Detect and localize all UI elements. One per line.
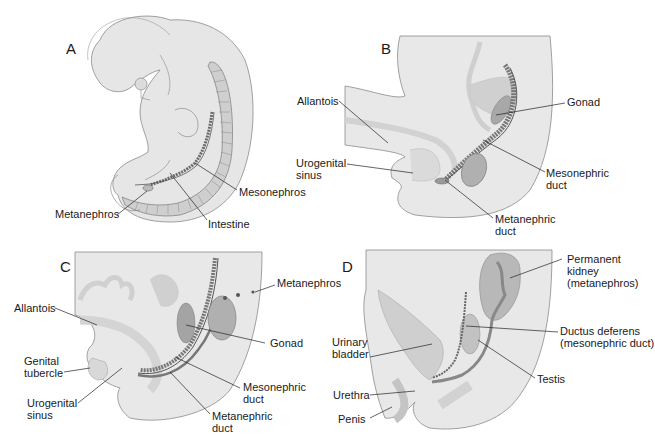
label-urethra-d: Urethra	[333, 389, 370, 402]
label-metanephros-c: Metanephros	[277, 277, 341, 290]
panel-b-section	[339, 36, 565, 218]
label-tubercle-c: tubercle	[24, 367, 63, 380]
label-mesonephric-duct-d: (mesonephric duct)	[560, 337, 654, 350]
panel-d-body	[364, 250, 552, 429]
label-gonad-b: Gonad	[567, 96, 600, 109]
label-metanephros-a: Metanephros	[55, 208, 119, 221]
label-bladder-d: bladder	[332, 348, 369, 361]
label-allantois-b: Allantois	[297, 95, 339, 108]
label-allantois-c: Allantois	[14, 302, 56, 315]
panel-label-a: A	[66, 40, 76, 57]
label-sinus-c: sinus	[27, 409, 53, 422]
gonad-c	[177, 303, 195, 343]
label-mesonephros-a: Mesonephros	[239, 186, 306, 199]
panel-a-embryo	[88, 16, 253, 222]
panel-label-c: C	[60, 258, 71, 275]
label-testis-d: Testis	[537, 373, 565, 386]
label-gonad-c: Gonad	[270, 337, 303, 350]
panel-label-b: B	[381, 40, 391, 57]
metanephric-duct-b-bud	[435, 178, 449, 184]
leader-genital-tubercle-c	[64, 368, 90, 372]
label-penis-d: Penis	[338, 413, 366, 426]
optic-vesicle	[135, 78, 147, 90]
label-mesonephric-duct-c: duct	[243, 393, 264, 406]
panel-c-section	[55, 252, 275, 420]
label-mesonephric-duct-b: duct	[546, 179, 567, 192]
label-intestine-a: Intestine	[208, 218, 250, 231]
label-metanephric-duct-b: duct	[495, 225, 516, 238]
label-metanephros-d: (metanephros)	[567, 277, 639, 290]
panel-label-d: D	[342, 258, 353, 275]
label-metanephric-duct-c: duct	[212, 422, 233, 435]
label-sinus-b: sinus	[296, 169, 322, 182]
panel-d-section	[364, 250, 562, 429]
metanephros-bud-a	[143, 185, 153, 191]
